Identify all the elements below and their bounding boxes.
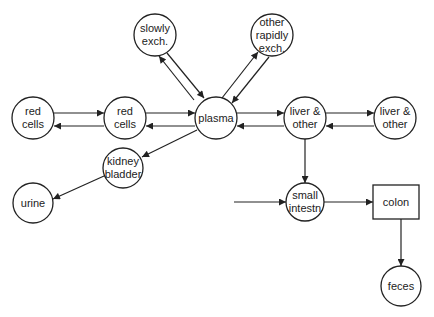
label-line: liver &: [380, 105, 411, 118]
label-line: slowly: [140, 22, 170, 35]
label-line: intestn: [289, 202, 321, 215]
label-line: rapidly: [256, 29, 288, 42]
label-line: red: [114, 105, 136, 118]
node-label-slowly-exch: slowlyexch.: [140, 22, 170, 48]
edge-plasma-to-kidney-bladder: [142, 130, 197, 157]
label-line: cells: [22, 118, 44, 131]
node-label-feces: feces: [388, 280, 414, 293]
node-label-red-cells-2: redcells: [114, 105, 136, 131]
label-line: small: [289, 189, 321, 202]
label-line: feces: [388, 280, 414, 293]
node-label-colon: colon: [383, 196, 409, 209]
node-label-plasma: plasma: [198, 112, 233, 125]
label-line: other: [256, 16, 288, 29]
label-line: cells: [114, 118, 136, 131]
edge-slowly-exch-to-plasma: [167, 53, 204, 98]
node-label-red-cells-1: redcells: [22, 105, 44, 131]
label-line: kidney: [105, 155, 142, 168]
node-label-urine: urine: [21, 197, 45, 210]
label-line: red: [22, 105, 44, 118]
edge-plasma-to-slowly-exch: [159, 56, 194, 100]
label-line: urine: [21, 197, 45, 210]
edge-other-rapidly-exch-to-plasma: [232, 57, 269, 103]
node-label-other-rapidly-exch: otherrapidlyexch.: [256, 16, 288, 55]
node-label-liver-other-2: liver &other: [380, 105, 411, 131]
label-line: exch.: [140, 35, 170, 48]
edge-kidney-bladder-to-urine: [53, 176, 104, 199]
label-line: liver &: [290, 105, 321, 118]
edge-plasma-to-other-rapidly-exch: [222, 52, 258, 98]
label-line: exch.: [256, 42, 288, 55]
label-line: other: [290, 118, 321, 131]
label-line: bladder: [105, 168, 142, 181]
node-label-liver-other-1: liver &other: [290, 105, 321, 131]
label-line: colon: [383, 196, 409, 209]
node-label-small-intestn: smallintestn: [289, 189, 321, 215]
node-label-kidney-bladder: kidneybladder: [105, 155, 142, 181]
label-line: other: [380, 118, 411, 131]
label-line: plasma: [198, 112, 233, 125]
diagram-canvas: [0, 0, 434, 317]
